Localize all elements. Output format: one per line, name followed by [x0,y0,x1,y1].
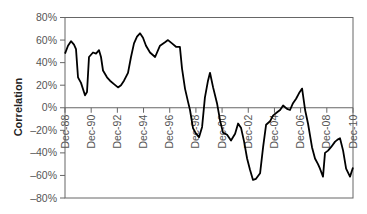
y-axis-title: Correlation [12,78,24,137]
x-tick-label: Dec-06 [294,115,306,149]
y-tick-label: 20% [36,79,57,91]
x-tick-label: Dec-90 [85,115,97,149]
correlation-line-chart: 80%60%40%20%0%–20%–40%–60%–80% Dec-88Dec… [0,0,367,214]
y-tick-label: 0% [42,101,57,113]
x-tick-label: Dec-04 [268,115,280,149]
x-tick-label: Dec-88 [59,115,71,149]
x-tick-label: Dec-08 [320,115,332,149]
y-axis: 80%60%40%20%0%–20%–40%–60%–80% [30,11,65,204]
x-tick-label: Dec-94 [137,115,149,149]
series-layer [65,33,353,180]
y-tick-label: 80% [36,11,57,23]
y-tick-label: –60% [30,169,57,181]
correlation-line [65,33,353,180]
x-tick-label: Dec-96 [163,115,175,149]
y-tick-label: –40% [30,146,57,158]
y-tick-label: 60% [36,34,57,46]
x-tick-label: Dec-92 [111,115,123,149]
y-tick-label: 40% [36,56,57,68]
x-tick-label: Dec-00 [216,115,228,149]
x-axis: Dec-88Dec-90Dec-92Dec-94Dec-96Dec-98Dec-… [59,108,359,149]
x-tick-label: Dec-10 [347,115,359,149]
y-tick-label: –80% [30,192,57,204]
y-tick-label: –20% [30,124,57,136]
